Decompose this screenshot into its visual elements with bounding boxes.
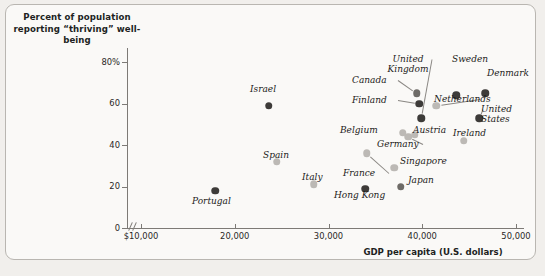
y-tick-label: 60 bbox=[80, 98, 120, 108]
data-point[interactable] bbox=[460, 137, 468, 145]
data-point[interactable] bbox=[363, 150, 371, 158]
data-point[interactable] bbox=[390, 164, 398, 172]
plot-area: Percent of population reporting “thrivin… bbox=[0, 0, 545, 276]
x-tick-mark bbox=[516, 224, 517, 229]
data-point-label: Denmark bbox=[487, 68, 529, 78]
data-point-label: Ireland bbox=[453, 128, 486, 138]
y-tick-mark bbox=[122, 187, 127, 188]
data-point[interactable] bbox=[413, 89, 421, 97]
y-tick-label: 20 bbox=[80, 181, 120, 191]
data-point[interactable] bbox=[265, 102, 273, 110]
data-point-label: Germany bbox=[377, 139, 419, 149]
data-point-label: Italy bbox=[302, 172, 323, 182]
y-tick-label: 80% bbox=[80, 57, 120, 67]
x-tick-label: $10,000 bbox=[106, 231, 176, 241]
data-point-label: United Kingdom bbox=[386, 54, 430, 74]
data-point[interactable] bbox=[397, 183, 405, 191]
data-point-label: Japan bbox=[408, 175, 434, 185]
data-point-label: Canada bbox=[352, 75, 387, 85]
y-tick-mark bbox=[122, 228, 127, 229]
y-tick-mark bbox=[122, 62, 127, 63]
data-point-label: Finland bbox=[352, 95, 387, 105]
data-point[interactable] bbox=[211, 187, 219, 195]
data-point-label: Hong Kong bbox=[334, 190, 385, 200]
axis-break-slash bbox=[132, 222, 137, 231]
data-point-label: Belgium bbox=[340, 125, 378, 135]
data-label-leader-line bbox=[398, 80, 413, 91]
y-axis-title: Percent of population reporting “thrivin… bbox=[12, 12, 142, 47]
y-tick-mark bbox=[122, 104, 127, 105]
x-axis-title: GDP per capita (U.S. dollars) bbox=[333, 247, 533, 257]
data-point-label: Israel bbox=[250, 84, 276, 94]
y-tick-label: 40 bbox=[80, 140, 120, 150]
x-tick-label: 50,000 bbox=[481, 231, 545, 241]
x-tick-mark bbox=[329, 224, 330, 229]
data-point-label: Netherlands bbox=[434, 94, 491, 104]
data-point-label: United States bbox=[481, 104, 519, 124]
data-label-leader-line bbox=[398, 100, 415, 104]
x-tick-label: 40,000 bbox=[387, 231, 457, 241]
x-tick-mark bbox=[235, 224, 236, 229]
data-point-label: Austria bbox=[413, 125, 446, 135]
data-point-label: Spain bbox=[263, 150, 289, 160]
data-point-label: France bbox=[343, 168, 375, 178]
data-point-label: Singapore bbox=[400, 156, 447, 166]
data-point-label: Portugal bbox=[192, 196, 231, 206]
x-tick-label: 20,000 bbox=[200, 231, 270, 241]
data-point[interactable] bbox=[399, 129, 407, 137]
figure-root: Percent of population reporting “thrivin… bbox=[0, 0, 545, 276]
data-point[interactable] bbox=[418, 114, 426, 122]
x-tick-mark bbox=[422, 224, 423, 229]
data-point-label: Sweden bbox=[452, 54, 488, 64]
y-axis-line bbox=[127, 48, 128, 229]
x-tick-mark bbox=[141, 224, 142, 229]
y-tick-mark bbox=[122, 145, 127, 146]
x-tick-label: 30,000 bbox=[294, 231, 364, 241]
